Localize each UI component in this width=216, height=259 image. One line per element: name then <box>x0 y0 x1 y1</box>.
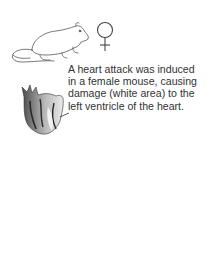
caption-line: in a female mouse, causing <box>68 75 214 87</box>
heart-icon <box>18 83 70 135</box>
female-symbol-icon <box>94 20 116 54</box>
mouse-icon <box>10 20 92 66</box>
figure-caption: A heart attack was induced in a female m… <box>68 63 214 112</box>
caption-line: A heart attack was induced <box>68 63 214 75</box>
caption-line: left ventricle of the heart. <box>68 100 214 112</box>
caption-line: damage (white area) to the <box>68 87 214 99</box>
